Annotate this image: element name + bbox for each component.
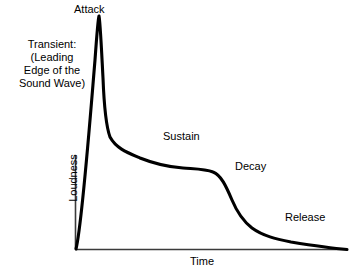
transient-label: Transient:(LeadingEdge of theSound Wave): [8, 38, 96, 90]
release-label: Release: [285, 211, 325, 224]
transient-line-3: Edge of the: [24, 64, 80, 76]
transient-line-1: Transient:: [28, 38, 77, 50]
transient-line-2: (Leading: [31, 51, 74, 63]
y-axis-title: Loudness: [67, 143, 80, 213]
sustain-label: Sustain: [163, 130, 200, 143]
attack-label: Attack: [74, 3, 105, 16]
transient-line-4: Sound Wave): [19, 77, 85, 89]
adsr-envelope-diagram: Attack Transient:(LeadingEdge of theSoun…: [0, 0, 351, 276]
decay-label: Decay: [235, 160, 266, 173]
x-axis-title: Time: [190, 255, 214, 268]
